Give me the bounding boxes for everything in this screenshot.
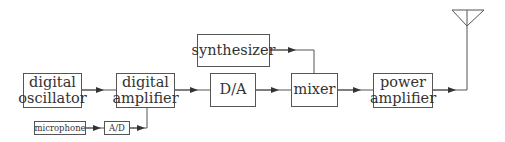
ad-block: A/D: [104, 121, 130, 135]
power-amplifier-label-2: amplifier: [370, 91, 436, 106]
digital-amplifier-label-2: amplifier: [112, 91, 178, 106]
microphone-label: microphone: [34, 124, 85, 133]
digital-oscillator-label-2: oscillator: [18, 91, 86, 106]
antenna-icon: [452, 10, 484, 26]
power-amplifier-label-1: power: [380, 75, 426, 90]
digital-amplifier-block: digital amplifier: [116, 73, 175, 108]
mixer-label: mixer: [293, 82, 335, 97]
mixer-block: mixer: [291, 73, 338, 107]
ad-label: A/D: [109, 124, 125, 133]
digital-amplifier-label-1: digital: [122, 75, 169, 90]
synthesizer-label: synthesizer: [192, 43, 276, 58]
digital-oscillator-label-1: digital: [29, 75, 76, 90]
power-amplifier-block: power amplifier: [373, 73, 433, 108]
da-block: D/A: [210, 73, 256, 107]
synthesizer-block: synthesizer: [197, 34, 270, 67]
digital-oscillator-block: digital oscillator: [23, 73, 82, 108]
da-label: D/A: [220, 82, 247, 97]
microphone-block: microphone: [34, 121, 86, 135]
